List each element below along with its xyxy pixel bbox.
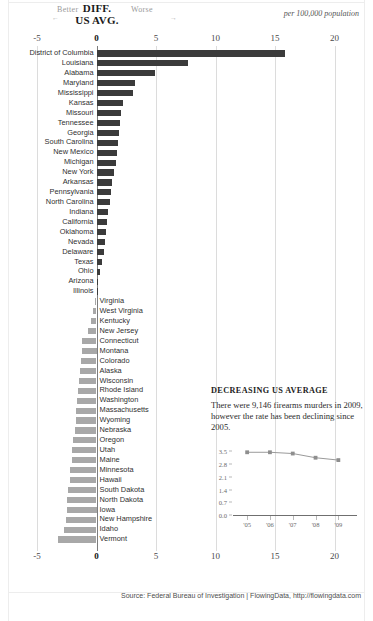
- bar: [64, 527, 96, 533]
- bar: [97, 80, 135, 86]
- bar-label: Alabama: [64, 68, 93, 78]
- bar: [91, 318, 96, 324]
- bar-label: Iowa: [100, 505, 116, 515]
- worse-arrow-icon: →: [131, 14, 177, 20]
- bar: [97, 288, 98, 294]
- bar: [73, 437, 97, 443]
- inset-heading: DECREASING US AVERAGE: [211, 386, 363, 395]
- bar-label: Maryland: [63, 78, 93, 88]
- bar: [66, 517, 97, 523]
- bar-label: Rhode Island: [100, 385, 144, 395]
- bar: [97, 60, 189, 66]
- bar-label: Georgia: [67, 128, 93, 138]
- bar-label: Hawaii: [100, 475, 122, 485]
- bar: [79, 378, 97, 384]
- x-axis-ticks-top: -505101520: [0, 33, 373, 47]
- bar: [76, 417, 97, 423]
- inset-data-point: [268, 450, 272, 454]
- bar: [97, 50, 285, 56]
- bar-label: Missouri: [66, 108, 94, 118]
- bar: [97, 219, 108, 225]
- bar-label: North Dakota: [100, 495, 144, 505]
- bar-label: Alaska: [100, 366, 122, 376]
- bar-label: Pennsylvania: [50, 187, 94, 197]
- bar-label: Oregon: [100, 435, 125, 445]
- bar: [68, 487, 97, 493]
- bar-label: Illinois: [73, 286, 94, 296]
- bar-label: Nevada: [68, 237, 93, 247]
- bar: [97, 229, 107, 235]
- bar-label: Tennessee: [58, 118, 94, 128]
- x-axis-ticks-bottom: -505101520: [0, 551, 373, 565]
- bar: [97, 160, 116, 166]
- bar: [58, 536, 96, 542]
- bar-label: Delaware: [62, 247, 93, 257]
- source-note: Source: Federal Bureau of Investigation …: [121, 592, 361, 599]
- bar: [70, 467, 96, 473]
- bar: [95, 298, 97, 304]
- bar: [97, 90, 134, 96]
- bar-label: Connecticut: [100, 336, 139, 346]
- x-tick-label: -5: [33, 551, 41, 561]
- bar: [72, 447, 96, 453]
- bar-label: New York: [62, 167, 93, 177]
- x-tick-label: 15: [271, 33, 280, 43]
- inset-data-point: [336, 458, 340, 462]
- bar-label: Colorado: [100, 356, 130, 366]
- bar-label: Washington: [100, 395, 139, 405]
- bar: [97, 130, 120, 136]
- bar-label: New Jersey: [100, 326, 139, 336]
- bar: [81, 358, 96, 364]
- inset-line-chart: 0.00.71.42.12.83.5'05'06'07'08'09: [211, 441, 363, 533]
- bar: [80, 368, 96, 374]
- chart-title-line2: US AVG.: [75, 14, 118, 26]
- bar-label: South Dakota: [100, 485, 145, 495]
- infographic-page: Better ← Worse → DIFF. US AVG. per 100,0…: [0, 0, 373, 621]
- bar: [67, 497, 96, 503]
- inset-data-point: [291, 452, 295, 456]
- bar: [77, 398, 96, 404]
- inset-data-point: [314, 456, 318, 460]
- bar-label: Montana: [100, 346, 129, 356]
- bar-label: Mississippi: [58, 88, 94, 98]
- x-tick-label: 10: [211, 551, 220, 561]
- inset-body: There were 9,146 firearms murders in 200…: [211, 400, 363, 433]
- bar-label: Kansas: [69, 98, 94, 108]
- inset-series: [211, 441, 363, 533]
- bar: [97, 259, 103, 265]
- bar: [97, 150, 117, 156]
- bar-label: West Virginia: [100, 306, 143, 316]
- bar-label: Kentucky: [100, 316, 130, 326]
- bar: [76, 408, 96, 414]
- x-tick-label: 15: [271, 551, 280, 561]
- bar-label: Vermont: [100, 534, 128, 544]
- chart-title: DIFF. US AVG.: [60, 3, 134, 26]
- bar-label: Utah: [100, 445, 116, 455]
- bar: [97, 279, 98, 285]
- x-tick-label: 5: [154, 33, 159, 43]
- bar-label: Indiana: [69, 207, 93, 217]
- bar-label: Michigan: [64, 157, 94, 167]
- bar: [70, 477, 97, 483]
- bar: [97, 269, 101, 275]
- bar: [82, 348, 97, 354]
- bar-label: Arkansas: [63, 177, 94, 187]
- bar-label: Wisconsin: [100, 376, 134, 386]
- bar-label: Texas: [74, 257, 93, 267]
- x-tick-label: 20: [330, 33, 339, 43]
- bar: [88, 328, 96, 334]
- bar: [75, 427, 96, 433]
- bar-label: Ohio: [78, 266, 94, 276]
- bar: [97, 110, 122, 116]
- bar-label: Massachusetts: [100, 405, 149, 415]
- bar: [82, 338, 96, 344]
- bar: [97, 249, 104, 255]
- bar: [97, 120, 121, 126]
- bar-label: North Carolina: [46, 197, 94, 207]
- bar: [97, 70, 155, 76]
- x-tick-label: -5: [33, 33, 41, 43]
- inset-panel: DECREASING US AVERAGE There were 9,146 f…: [211, 386, 363, 536]
- x-tick-label: 10: [211, 33, 220, 43]
- worse-label: Worse: [131, 5, 153, 14]
- bar-label: South Carolina: [45, 137, 94, 147]
